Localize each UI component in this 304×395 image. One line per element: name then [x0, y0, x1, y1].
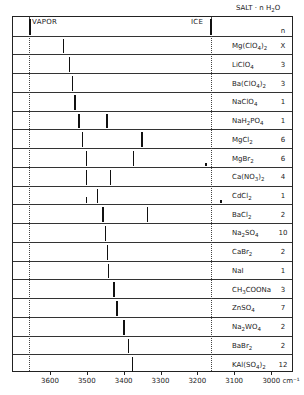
n-value: 1 — [276, 98, 290, 106]
formula-part: Mg(ClO — [232, 42, 258, 50]
subscript: 4 — [254, 102, 258, 108]
row-divider — [13, 54, 292, 55]
row-divider — [13, 317, 292, 318]
x-tick-label: 3200 — [188, 377, 206, 385]
n-value: 1 — [276, 117, 290, 125]
row-divider — [13, 129, 292, 130]
peak-bar — [82, 132, 84, 147]
x-tick — [87, 372, 88, 375]
formula-part: Na — [232, 323, 242, 331]
n-value: 2 — [276, 211, 290, 219]
formula-part: MgBr — [232, 155, 250, 163]
salt-label: BaCl2 — [232, 211, 251, 220]
row-divider — [13, 36, 292, 37]
formula-part: COONa — [246, 286, 271, 294]
vapor-marker — [29, 19, 31, 35]
x-tick — [124, 372, 125, 375]
peak-bar — [128, 339, 130, 354]
salt-label: BaBr2 — [232, 342, 252, 351]
title-part: SALT · n H — [236, 4, 271, 12]
row-divider — [13, 148, 292, 149]
row-divider — [13, 261, 292, 262]
formula-part: CdCl — [232, 192, 248, 200]
peak-bar — [106, 114, 108, 129]
peak-bar — [63, 39, 65, 54]
x-tick — [197, 372, 198, 375]
salt-label: Na2SO4 — [232, 229, 258, 238]
salt-label: Ca(NO3)2 — [232, 173, 264, 182]
formula-part: BaCl — [232, 211, 248, 219]
x-tick — [50, 372, 51, 375]
salt-label: Ba(ClO4)2 — [232, 80, 266, 89]
n-value: 2 — [276, 342, 290, 350]
n-value: 1 — [276, 267, 290, 275]
subscript: 4 — [250, 64, 254, 70]
n-value: 6 — [276, 155, 290, 163]
peak-bar — [147, 207, 149, 222]
x-tick-label: 3100 — [225, 377, 243, 385]
formula-part: BaBr — [232, 342, 249, 350]
peak-bar — [105, 226, 107, 241]
formula-part: WO — [245, 323, 257, 331]
row-divider — [13, 279, 292, 280]
formula-part: CH — [232, 286, 242, 294]
minor-peak-bar — [205, 163, 207, 166]
formula-part: PO — [250, 117, 260, 125]
salt-label: KAl(SO4)2 — [232, 361, 266, 370]
subscript: 2 — [248, 214, 252, 220]
subscript: 2 — [248, 195, 252, 201]
x-tick — [271, 372, 272, 375]
peak-bar — [74, 95, 76, 110]
peak-bar — [132, 357, 134, 372]
peak-bar — [141, 132, 143, 147]
n-value: 3 — [276, 80, 290, 88]
subscript: 2 — [249, 252, 253, 258]
peak-bar — [110, 170, 112, 185]
ice-reference-line — [211, 17, 212, 371]
subscript: 4 — [255, 233, 259, 239]
salt-label: NaClO4 — [232, 98, 257, 107]
salt-label: MgBr2 — [232, 155, 254, 164]
x-tick — [234, 372, 235, 375]
formula-part: KAl(SO — [232, 361, 256, 369]
salt-label: ZnSO4 — [232, 304, 255, 313]
formula-part: NaClO — [232, 98, 254, 106]
peak-bar — [113, 282, 115, 297]
n-value: 2 — [276, 248, 290, 256]
formula-part: NaH — [232, 117, 247, 125]
salt-label: MgCl2 — [232, 136, 253, 145]
row-divider — [13, 204, 292, 205]
peak-bar — [107, 245, 109, 260]
salt-label: CaBr2 — [232, 248, 252, 257]
peak-bar — [78, 114, 80, 129]
formula-part: CaBr — [232, 248, 249, 256]
x-tick-label: 3400 — [115, 377, 133, 385]
formula-part: Na — [232, 229, 242, 237]
n-value: 3 — [276, 61, 290, 69]
formula-part: SO — [245, 229, 255, 237]
row-divider — [13, 92, 292, 93]
row-divider — [13, 73, 292, 74]
chart-frame: VAPORICEnMg(ClO4)2XLiClO43Ba(ClO4)23NaCl… — [12, 16, 293, 372]
salt-label: Mg(ClO4)2 — [232, 42, 267, 51]
row-divider — [13, 111, 292, 112]
x-tick — [161, 372, 162, 375]
peak-bar — [116, 301, 118, 316]
row-divider — [13, 186, 292, 187]
formula-part: NaI — [232, 267, 244, 275]
n-column-header: n — [276, 27, 290, 35]
salt-label: CH3COONa — [232, 286, 271, 295]
formula-part: MgCl — [232, 136, 249, 144]
n-value: 3 — [276, 286, 290, 294]
salt-label: NaI — [232, 267, 244, 275]
minor-peak-bar — [220, 200, 222, 203]
formula-part: Ca(NO — [232, 173, 255, 181]
salt-label: CdCl2 — [232, 192, 252, 201]
n-value: 12 — [276, 361, 290, 369]
peak-bar — [133, 151, 135, 166]
vapor-label: VAPOR — [32, 18, 57, 26]
peak-bar — [69, 57, 71, 72]
peak-bar — [108, 264, 110, 279]
salt-label: Na2WO4 — [232, 323, 261, 332]
row-divider — [13, 242, 292, 243]
